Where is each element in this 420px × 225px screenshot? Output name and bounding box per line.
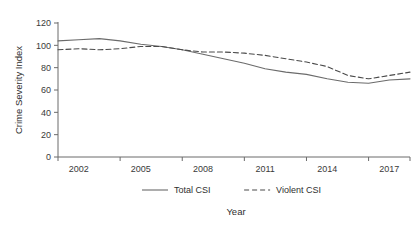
crime-severity-index-chart: 020406080100120 200220052008201120142017… <box>0 0 420 225</box>
x-tick-label: 2017 <box>379 164 399 174</box>
chart-legend: Total CSIViolent CSI <box>142 185 321 195</box>
x-tick-label: 2011 <box>255 164 274 174</box>
y-axis-group: 020406080100120 <box>36 18 58 162</box>
y-tick-label: 80 <box>41 63 51 73</box>
y-tick-label: 100 <box>36 41 51 51</box>
y-tick-label: 60 <box>41 85 51 95</box>
y-tick-label: 120 <box>36 18 51 28</box>
x-axis-group: 200220052008201120142017 <box>58 157 410 174</box>
x-tick-label: 2002 <box>69 164 89 174</box>
legend-label-total-csi: Total CSI <box>174 185 211 195</box>
y-tick-label: 40 <box>41 108 51 118</box>
legend-label-violent-csi: Violent CSI <box>276 185 321 195</box>
series-line-violent-csi <box>58 46 410 78</box>
y-axis-ticks: 020406080100120 <box>36 18 58 162</box>
series-line-total-csi <box>58 39 410 84</box>
x-tick-label: 2005 <box>131 164 151 174</box>
data-series-group <box>58 39 410 84</box>
x-axis-title: Year <box>226 206 245 217</box>
x-tick-label: 2008 <box>193 164 213 174</box>
y-axis-title: Crime Severity Index <box>13 46 24 134</box>
x-tick-label: 2014 <box>317 164 337 174</box>
x-axis-ticks: 200220052008201120142017 <box>58 157 410 174</box>
y-tick-label: 20 <box>41 130 51 140</box>
chart-canvas: 020406080100120 200220052008201120142017… <box>0 0 420 225</box>
y-tick-label: 0 <box>46 152 51 162</box>
